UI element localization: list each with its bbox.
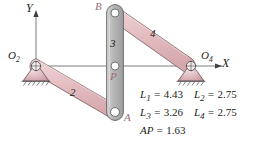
four-bar-linkage-figure: X Y O2 O4 A B P 2 3 4 L1 = 4.43 L2 = 2.7… [0, 0, 271, 149]
x-axis-arrowhead [215, 63, 222, 68]
dimension-row: L1 = 4.43 L2 = 2.75 [140, 88, 237, 103]
dimension-l2-value: 2.75 [218, 88, 237, 100]
joint-label-b: B [95, 1, 102, 12]
dimension-l3: L3 = 3.26 [140, 106, 183, 121]
joint-hole-b [111, 9, 119, 17]
dimension-l1-value: 4.43 [164, 88, 183, 100]
joint-label-o2-sub: 2 [16, 55, 20, 64]
dimension-ap-value: 1.63 [166, 124, 185, 136]
dimension-l1: L1 = 4.43 [140, 88, 183, 103]
joint-label-o4: O4 [201, 50, 213, 64]
dimension-ap-symbol: AP [140, 124, 153, 136]
dimension-list: L1 = 4.43 L2 = 2.75 L3 = 3.26 L4 = 2.75 … [140, 88, 237, 139]
joint-label-o4-text: O [201, 49, 209, 61]
joint-label-a: A [124, 112, 131, 123]
x-axis-label: X [222, 57, 229, 69]
dimension-l4: L4 = 2.75 [194, 106, 237, 121]
link-number-3: 3 [110, 38, 116, 49]
dimension-row: AP = 1.63 [140, 124, 237, 136]
joint-hole-p [111, 62, 119, 70]
dimension-l3-value: 3.26 [164, 106, 183, 118]
dimension-ap: AP = 1.63 [140, 124, 185, 136]
joint-label-p: P [110, 71, 117, 82]
dimension-l2: L2 = 2.75 [194, 88, 237, 103]
joint-label-o4-sub: 4 [209, 55, 213, 64]
dimension-row: L3 = 3.26 L4 = 2.75 [140, 106, 237, 121]
dimension-l2-sub: 2 [200, 93, 205, 103]
joint-hole-a [111, 108, 120, 117]
y-axis-label: Y [26, 2, 33, 14]
link-number-2: 2 [70, 87, 76, 98]
dimension-l4-sub: 4 [200, 111, 205, 121]
joint-label-o2-text: O [8, 49, 16, 61]
dimension-l1-sub: 1 [146, 93, 151, 103]
dimension-l4-value: 2.75 [218, 106, 237, 118]
joint-label-o2: O2 [8, 50, 20, 64]
y-axis-arrowhead [33, 10, 38, 17]
link-number-4: 4 [150, 28, 156, 39]
dimension-l3-sub: 3 [146, 111, 151, 121]
